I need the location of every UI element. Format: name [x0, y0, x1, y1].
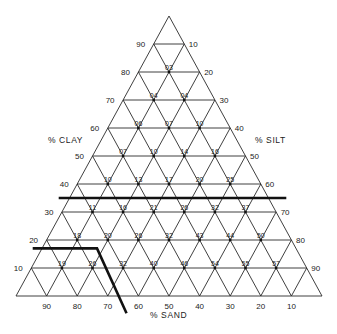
clay-tick-label: 50 [75, 152, 84, 161]
value-label: 04 [180, 92, 188, 99]
value-point [152, 211, 155, 214]
value-point [229, 183, 232, 186]
sand-tick-label: 30 [226, 302, 235, 311]
silt-axis-title: % SILT [255, 135, 286, 145]
value-point [137, 127, 140, 130]
silt-tick-label: 70 [281, 208, 290, 217]
value-label: 37 [242, 204, 250, 211]
value-point [91, 267, 94, 270]
value-point [183, 267, 186, 270]
value-label: 26 [135, 232, 143, 239]
value-label: 04 [150, 92, 158, 99]
silt-tick-label: 30 [219, 96, 228, 105]
value-point [152, 267, 155, 270]
value-point [198, 239, 201, 242]
silt-gridline [230, 212, 276, 296]
value-label: 16 [211, 148, 219, 155]
value-label: 18 [73, 232, 81, 239]
value-point [61, 267, 64, 270]
value-label: 46 [180, 260, 188, 267]
clay-axis-title: % CLAY [48, 135, 83, 145]
value-point [198, 127, 201, 130]
sand-tick-label: 10 [287, 302, 296, 311]
value-label: 20 [104, 232, 112, 239]
value-label: 10 [104, 176, 112, 183]
value-point [198, 183, 201, 186]
value-point [244, 211, 247, 214]
value-label: 13 [135, 176, 143, 183]
value-label: 44 [226, 232, 234, 239]
value-label: 11 [89, 204, 96, 211]
silt-tick-label: 80 [296, 236, 305, 245]
silt-tick-label: 50 [250, 152, 259, 161]
cell-values: 0304040607100710141610131720251116212632… [58, 64, 280, 270]
value-point [122, 211, 125, 214]
value-point [183, 155, 186, 158]
clay-tick-label: 40 [60, 180, 69, 189]
value-point [275, 267, 278, 270]
value-label: 25 [226, 176, 234, 183]
value-point [214, 211, 217, 214]
value-point [137, 183, 140, 186]
silt-gridline [47, 44, 185, 296]
sand-tick-label: 90 [42, 302, 51, 311]
sand-gridline [31, 268, 46, 296]
sand-tick-label: 20 [256, 302, 265, 311]
value-label: 55 [242, 260, 250, 267]
silt-tick-label: 40 [235, 124, 244, 133]
value-label: 50 [257, 232, 265, 239]
value-label: 10 [150, 148, 158, 155]
value-label: 26 [180, 204, 188, 211]
value-point [152, 155, 155, 158]
value-label: 54 [211, 260, 219, 267]
value-label: 57 [272, 260, 280, 267]
value-point [168, 239, 171, 242]
value-label: 16 [119, 204, 127, 211]
value-label: 19 [58, 260, 66, 267]
value-point [106, 183, 109, 186]
value-label: 14 [180, 148, 188, 155]
value-point [214, 155, 217, 158]
value-label: 32 [165, 232, 173, 239]
value-point [168, 127, 171, 130]
value-point [229, 239, 232, 242]
value-label: 07 [165, 120, 173, 127]
value-point [183, 211, 186, 214]
value-point [183, 99, 186, 102]
value-point [76, 239, 79, 242]
value-point [168, 71, 171, 74]
value-label: 06 [135, 120, 143, 127]
value-label: 40 [150, 260, 158, 267]
value-label: 21 [150, 204, 158, 211]
clay-tick-label: 70 [106, 96, 115, 105]
value-point [122, 267, 125, 270]
value-point [244, 267, 247, 270]
silt-tick-label: 60 [265, 180, 274, 189]
clay-tick-label: 30 [44, 208, 53, 217]
clay-tick-label: 90 [136, 40, 145, 49]
value-label: 32 [119, 260, 127, 267]
value-label: 43 [196, 232, 204, 239]
silt-tick-label: 90 [311, 264, 320, 273]
value-label: 32 [211, 204, 219, 211]
soil-texture-triangle: 1020304050607080901020304050607080909080… [0, 0, 337, 334]
value-point [106, 239, 109, 242]
value-point [152, 99, 155, 102]
value-label: 20 [196, 176, 204, 183]
sand-tick-label: 70 [103, 302, 112, 311]
value-label: 10 [196, 120, 204, 127]
sand-tick-label: 80 [73, 302, 82, 311]
value-point [91, 211, 94, 214]
silt-gridline [291, 268, 306, 296]
value-point [137, 239, 140, 242]
value-point [214, 267, 217, 270]
sand-tick-label: 40 [195, 302, 204, 311]
silt-tick-label: 10 [189, 40, 198, 49]
clay-tick-label: 20 [29, 236, 38, 245]
sand-gridline [154, 44, 292, 296]
silt-tick-label: 20 [204, 68, 213, 77]
value-point [259, 239, 262, 242]
sand-axis-title: % SAND [150, 310, 187, 320]
value-label: 03 [165, 64, 173, 71]
sand-tick-label: 60 [134, 302, 143, 311]
